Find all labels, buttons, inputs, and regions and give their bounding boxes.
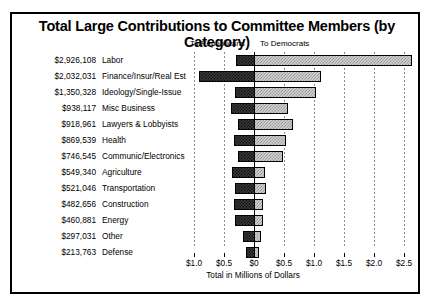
x-tick (344, 253, 345, 257)
bar-republicans (236, 55, 255, 66)
bar-republicans (234, 135, 255, 146)
row-amount: $1,350,328 (12, 84, 96, 100)
bar-republicans (231, 103, 255, 114)
legend-label-republicans: To Republicans (190, 39, 245, 48)
row-amount: $2,032,031 (12, 68, 96, 84)
bar-republicans (235, 183, 255, 194)
bar-row: $869,539Health (12, 132, 422, 148)
bar-rows: $2,926,108Labor$2,032,031Finance/Insur/R… (12, 52, 422, 260)
row-category-label: Transportation (102, 180, 155, 196)
x-tick (284, 253, 285, 257)
bar-democrats (254, 55, 412, 66)
x-axis-label: Total in Millions of Dollars (12, 270, 422, 280)
row-category-label: Energy (102, 212, 128, 228)
bar-row: $297,031Other (12, 228, 422, 244)
bar-row: $2,032,031Finance/Insur/Real Est (12, 68, 422, 84)
row-amount: $938,117 (12, 100, 96, 116)
x-tick (224, 253, 225, 257)
bar-republicans (238, 119, 255, 130)
chart-frame: Total Large Contributions to Committee M… (10, 12, 420, 294)
row-category-label: Lawyers & Lobbyists (102, 116, 178, 132)
row-category-label: Communic/Electronics (102, 148, 185, 164)
bar-republicans (232, 167, 255, 178)
x-tick-label: $2.5 (384, 258, 424, 268)
row-amount: $2,926,108 (12, 52, 96, 68)
row-amount: $549,340 (12, 164, 96, 180)
x-axis-label-text: Total in Millions of Dollars (206, 270, 300, 280)
bar-democrats (254, 87, 316, 98)
bar-democrats (254, 151, 283, 162)
row-amount: $918,961 (12, 116, 96, 132)
row-category-label: Other (102, 228, 123, 244)
row-category-label: Construction (102, 196, 149, 212)
bar-row: $521,046Transportation (12, 180, 422, 196)
bar-row: $549,340Agriculture (12, 164, 422, 180)
bar-row: $1,350,328Ideology/Single-Issue (12, 84, 422, 100)
bar-democrats (254, 167, 265, 178)
bar-democrats (254, 231, 261, 242)
bar-democrats (254, 71, 321, 82)
row-category-label: Finance/Insur/Real Est (102, 68, 186, 84)
bar-row: $482,656Construction (12, 196, 422, 212)
plot-area: $2,926,108Labor$2,032,031Finance/Insur/R… (12, 52, 422, 257)
bar-democrats (254, 183, 266, 194)
row-category-label: Labor (102, 52, 123, 68)
bar-republicans (234, 199, 255, 210)
x-tick (404, 253, 405, 257)
bar-democrats (254, 103, 288, 114)
row-amount: $297,031 (12, 228, 96, 244)
row-amount: $869,539 (12, 132, 96, 148)
bar-republicans (199, 71, 255, 82)
bar-democrats (254, 199, 263, 210)
bar-republicans (238, 151, 255, 162)
bar-row: $938,117Misc Business (12, 100, 422, 116)
x-tick (254, 253, 255, 257)
x-tick (194, 253, 195, 257)
bar-row: $746,545Communic/Electronics (12, 148, 422, 164)
row-category-label: Agriculture (102, 164, 142, 180)
row-category-label: Ideology/Single-Issue (102, 84, 181, 100)
row-amount: $521,046 (12, 180, 96, 196)
bar-row: $918,961Lawyers & Lobbyists (12, 116, 422, 132)
bar-row: $460,881Energy (12, 212, 422, 228)
row-amount: $482,656 (12, 196, 96, 212)
x-tick (374, 253, 375, 257)
legend-label-democrats: To Democrats (260, 39, 309, 48)
chart-screenshot: Total Large Contributions to Committee M… (0, 0, 431, 306)
x-axis: $1.0$0.5$0$0.5$1.0$1.5$2.0$2.5 Total in … (12, 253, 422, 293)
row-category-label: Health (102, 132, 126, 148)
bar-democrats (254, 135, 286, 146)
bar-democrats (254, 215, 263, 226)
row-amount: $460,881 (12, 212, 96, 228)
bar-row: $2,926,108Labor (12, 52, 422, 68)
bar-democrats (254, 119, 293, 130)
x-tick (314, 253, 315, 257)
bar-republicans (235, 87, 255, 98)
bar-republicans (235, 215, 255, 226)
row-category-label: Misc Business (102, 100, 155, 116)
row-amount: $746,545 (12, 148, 96, 164)
